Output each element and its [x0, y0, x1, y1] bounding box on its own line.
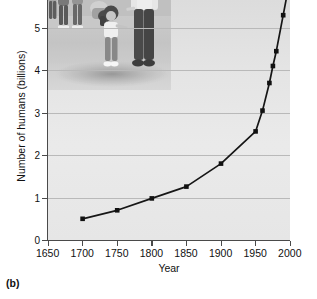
y-tick-3 — [42, 113, 47, 114]
y-tick-label-2: 2 — [34, 150, 40, 161]
x-tick-label-1800: 1800 — [140, 247, 163, 259]
y-tick-0 — [42, 240, 47, 241]
x-tick-label-1650: 1650 — [36, 247, 59, 259]
y-tick-label-1: 1 — [34, 192, 40, 203]
x-tick-1850 — [186, 241, 187, 246]
x-axis-line — [47, 240, 290, 241]
x-tick-label-1850: 1850 — [174, 247, 197, 259]
x-tick-label-1950: 1950 — [244, 247, 267, 259]
panel-label: (b) — [6, 277, 19, 289]
population-curve — [48, 0, 290, 240]
y-tick-label-5: 5 — [34, 22, 40, 33]
y-tick-label-4: 4 — [34, 65, 40, 76]
x-tick-label-1700: 1700 — [71, 247, 94, 259]
y-axis-title: Number of humans (billions) — [15, 31, 27, 201]
y-tick-4 — [42, 70, 47, 71]
x-tick-label-2000: 2000 — [278, 247, 301, 259]
x-tick-1750 — [117, 241, 118, 246]
y-tick-1 — [42, 198, 47, 199]
y-tick-label-0: 0 — [34, 235, 40, 246]
y-tick-label-3: 3 — [34, 107, 40, 118]
x-tick-2000 — [290, 241, 291, 246]
x-tick-1900 — [221, 241, 222, 246]
x-tick-label-1900: 1900 — [209, 247, 232, 259]
series-markers — [80, 13, 285, 221]
x-axis-title: Year — [48, 262, 290, 274]
x-tick-label-1750: 1750 — [105, 247, 128, 259]
y-axis-line — [47, 0, 48, 241]
plot-area — [48, 0, 290, 240]
x-tick-1700 — [82, 241, 83, 246]
x-tick-1650 — [48, 241, 49, 246]
x-tick-1800 — [151, 241, 152, 246]
x-tick-1950 — [255, 241, 256, 246]
y-tick-5 — [42, 28, 47, 29]
y-tick-2 — [42, 155, 47, 156]
figure-panel: 0 1 2 3 4 5 1650 1700 1750 1800 1850 190… — [0, 0, 317, 299]
